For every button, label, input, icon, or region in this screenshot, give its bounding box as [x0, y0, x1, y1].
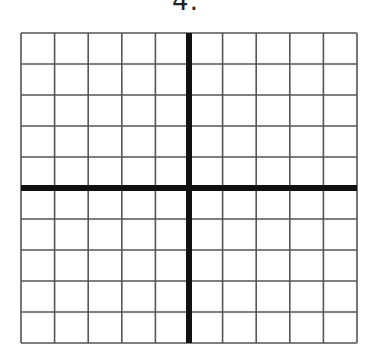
coordinate-grid — [0, 0, 371, 348]
